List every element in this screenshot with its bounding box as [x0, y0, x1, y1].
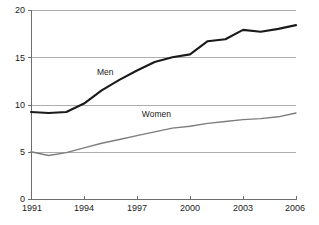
x-tick-label-1994: 1994 — [74, 203, 94, 213]
gridlines-group — [31, 11, 296, 200]
line-chart: 05101520 199119941997200020032006 MenWom… — [0, 0, 319, 225]
x-tick-label-2003: 2003 — [233, 203, 253, 213]
y-tick-label-10: 10 — [15, 100, 25, 110]
y-tick-label-20: 20 — [15, 5, 25, 15]
x-tick-label-1997: 1997 — [127, 203, 147, 213]
series-annotations-group: MenWomen — [97, 67, 171, 119]
y-tick-label-5: 5 — [20, 147, 25, 157]
x-tick-labels-group: 199119941997200020032006 — [22, 203, 305, 213]
y-tick-label-15: 15 — [15, 53, 25, 63]
series-line-men — [31, 25, 296, 113]
chart-canvas: 05101520 199119941997200020032006 MenWom… — [0, 0, 319, 225]
y-axis-group — [28, 10, 32, 200]
series-group — [31, 25, 296, 155]
x-tick-label-2000: 2000 — [180, 203, 200, 213]
series-label-women: Women — [142, 109, 171, 119]
series-label-men: Men — [97, 67, 114, 77]
x-tick-label-2006: 2006 — [285, 203, 305, 213]
series-line-women — [31, 113, 296, 156]
x-tick-label-1991: 1991 — [22, 203, 42, 213]
x-axis-group — [32, 196, 297, 200]
y-tick-labels-group: 05101520 — [15, 5, 25, 204]
